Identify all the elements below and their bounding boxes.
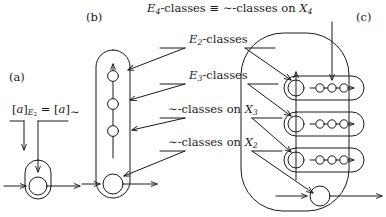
callout-e2-leader-left: [128, 48, 185, 70]
figure-title-mid: -classes ≡ ∼-classes on: [160, 1, 299, 15]
panel-c-bottom-node: [310, 186, 330, 206]
callout-tilde-classes-x2: ∼-classes on X2: [168, 137, 258, 150]
panel-c-row-2-node-c: [340, 120, 348, 128]
panel-b-artwork: [82, 50, 157, 198]
callout-e2-leader-right: [245, 48, 291, 80]
panel-c-row-3-node-a: [316, 156, 324, 164]
callout-e2-classes: E2-classes: [189, 34, 248, 47]
callout-x3-lead: ∼-classes on: [168, 102, 245, 116]
panel-b-node-1: [108, 71, 119, 82]
callout-x2-var: X: [245, 135, 253, 149]
figure-container: E4-classes ≡ ∼-classes on X4 (a) (b) (c)…: [0, 0, 386, 217]
callout-e2-rest: -classes: [202, 32, 247, 46]
panel-b-bottom-node: [103, 174, 123, 194]
callout-e3-rest: -classes: [202, 68, 247, 82]
panel-a-equation: [a]E2 = [a]∼: [12, 104, 80, 119]
panel-c-row-3-node-c: [340, 156, 348, 164]
eqn-sub-tilde: ∼: [70, 105, 80, 119]
eqn-equals: =: [37, 102, 54, 116]
panel-c-row-1-node-b: [328, 84, 336, 92]
callout-x3-var-sub: 3: [253, 108, 258, 117]
figure-title-var: X: [299, 1, 307, 15]
callout-x3-var: X: [245, 102, 253, 116]
callout-x2-leader-left: [124, 151, 185, 176]
panel-a-node: [29, 177, 47, 195]
callout-x3-leader-right: [252, 118, 291, 152]
panel-b-node-3: [108, 126, 119, 137]
figure-title-var-sub: 4: [308, 7, 313, 16]
callout-x3-leader-left: [132, 118, 185, 130]
callout-x2-lead: ∼-classes on: [168, 135, 245, 149]
figure-title: E4-classes ≡ ∼-classes on X4: [147, 3, 313, 16]
callout-e3-classes: E3-classes: [189, 70, 248, 83]
callout-e3-leader-left: [130, 84, 185, 100]
panel-a-artwork: [4, 121, 80, 199]
panel-tag-c: (c): [356, 12, 371, 24]
panel-c-row-3-node-b: [328, 156, 336, 164]
panel-c-artwork: [241, 22, 382, 211]
panel-c-row-1-node-a: [316, 84, 324, 92]
panel-c-row-2-node-b: [328, 120, 336, 128]
panel-tag-a: (a): [9, 72, 25, 84]
panel-c-row-2-node-a: [316, 120, 324, 128]
callout-x2-var-sub: 2: [253, 141, 258, 150]
panel-c-row-1-node-c: [340, 84, 348, 92]
panel-tag-b: (b): [86, 12, 102, 24]
panel-b-node-2: [108, 99, 119, 110]
callout-tilde-classes-x3: ∼-classes on X3: [168, 104, 258, 117]
